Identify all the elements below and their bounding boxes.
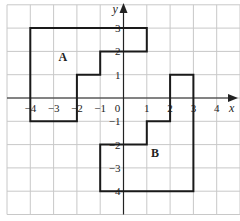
x-tick-label: 1 <box>144 102 150 114</box>
x-tick-label: −1 <box>94 102 106 114</box>
y-tick-label: 1 <box>115 69 121 81</box>
y-axis-label: y <box>112 2 119 16</box>
x-tick-label: 0 <box>115 102 121 114</box>
shape-b-label: B <box>151 146 159 160</box>
x-tick-label: 4 <box>214 102 220 114</box>
x-tick-label: −3 <box>48 102 60 114</box>
coordinate-diagram: x y −4−3−2−101234321−1−2−3−4 AB <box>0 0 240 221</box>
shape-a-label: A <box>59 50 68 64</box>
y-tick-label: −1 <box>109 115 121 127</box>
diagram-canvas: x y −4−3−2−101234321−1−2−3−4 AB <box>0 0 240 221</box>
axes: x y <box>7 2 238 215</box>
y-tick-label: −3 <box>109 162 121 174</box>
x-axis-label: x <box>228 101 235 115</box>
